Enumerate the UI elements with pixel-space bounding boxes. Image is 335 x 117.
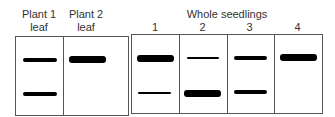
lane-label-line1: Plant 2 [61, 8, 111, 21]
group-title-whole-seedlings: Whole seedlings [131, 8, 323, 21]
lane-divider [274, 35, 275, 113]
band-seedling2-upper [187, 57, 219, 59]
lane-label-seedling-2: 2 [179, 21, 226, 34]
band-seedling4-upper [280, 54, 317, 61]
lane-divider [227, 35, 228, 113]
lane-label-plant2-leaf: Plant 2 leaf [61, 8, 111, 34]
band-seedling1-upper [137, 55, 174, 62]
band-plant1-lower [23, 92, 57, 96]
band-plant1-upper [23, 58, 57, 62]
lane-divider [179, 35, 180, 113]
band-seedling1-lower [138, 92, 171, 94]
lane-label-line2: leaf [61, 21, 111, 34]
gel-box-seedlings [131, 34, 323, 114]
lane-label-seedling-1: 1 [131, 21, 179, 34]
lane-divider [63, 37, 64, 115]
band-seedling3-lower [234, 90, 267, 94]
lane-label-line2: leaf [14, 21, 64, 34]
gel-box-leaf [15, 36, 129, 116]
lane-label-plant1-leaf: Plant 1 leaf [14, 8, 64, 34]
band-seedling3-upper [234, 56, 267, 60]
lane-label-seedling-3: 3 [226, 21, 273, 34]
lane-label-line1: Plant 1 [14, 8, 64, 21]
band-plant2-upper [69, 56, 106, 63]
lane-label-seedling-4: 4 [273, 21, 322, 34]
band-seedling2-lower [184, 90, 221, 97]
